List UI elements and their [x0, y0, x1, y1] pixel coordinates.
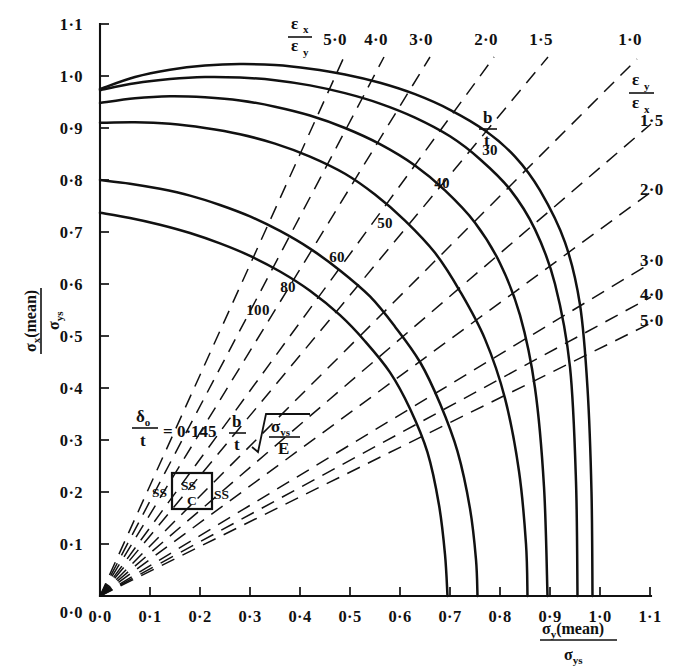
bt-curve-label: 40 [434, 175, 450, 191]
strain-ratio-rays [100, 57, 651, 596]
bt-curve-label: 100 [246, 302, 269, 318]
x-tick-label: 0·4 [288, 607, 311, 626]
epsilon-x-subscript: x [303, 23, 309, 35]
strain-ratio-ray [100, 323, 651, 596]
strain-ratio-ray-label: 4·0 [364, 30, 388, 49]
formula-sigma-ys: σys [271, 417, 291, 438]
y-tick-label: 0·1 [60, 535, 83, 554]
boundary-bottom-label: C [187, 493, 197, 508]
epsilon-y-symbol: ε [291, 36, 299, 55]
y-axis-title: σx(mean) σys [22, 288, 65, 354]
epsilon-y-over-x-label: ε y ε x [629, 70, 654, 115]
boundary-top-label: SS [181, 478, 196, 493]
epsilon-y-subscript: y [303, 46, 309, 58]
epsilon-y-subscript-right: y [644, 80, 650, 92]
chart-canvas: 0·10·20·30·40·50·60·70·80·91·01·10·0 0·0… [0, 0, 683, 666]
x-tick-label: 0·0 [88, 607, 111, 626]
x-tick-label: 1·1 [638, 607, 661, 626]
boundary-right-label: SS [214, 487, 229, 502]
y-axis-title-numerator: σx(mean) [22, 290, 42, 352]
formula-b: b [232, 412, 241, 431]
y-tick-label: 0·3 [60, 431, 83, 450]
bt-interaction-curves [100, 64, 593, 596]
formula-t: t [234, 435, 240, 454]
strain-ratio-ray-label: 5·0 [323, 30, 347, 49]
epsilon-x-symbol: ε [291, 14, 299, 33]
x-tick-label: 0·1 [138, 607, 161, 626]
strain-ratio-ray [100, 57, 344, 596]
bt-curve-50 [100, 96, 548, 596]
interaction-curve-figure: 0·10·20·30·40·50·60·70·80·91·01·10·0 0·0… [0, 0, 683, 666]
formula-E: E [278, 439, 289, 458]
epsilon-x-over-y-label: ε x ε y [288, 14, 312, 58]
epsilon-x-symbol-right: ε [632, 93, 640, 112]
x-tick-label: 0·8 [488, 607, 511, 626]
bt-curve-label: 60 [329, 249, 345, 265]
strain-ratio-ray-label: 4·0 [640, 285, 664, 304]
y-tick-label-zero: 0·0 [60, 603, 83, 622]
x-tick-label: 0·3 [238, 607, 261, 626]
strain-ratio-ray [100, 57, 430, 596]
x-tick-label: 0·7 [438, 607, 461, 626]
axes-group [100, 24, 651, 596]
bt-numerator: b [483, 108, 493, 127]
strain-ratio-ray [100, 297, 651, 596]
strain-ratio-ray [100, 57, 494, 596]
x-tick-label: 0·5 [338, 607, 361, 626]
epsilon-x-subscript-right: x [644, 103, 650, 115]
bt-denominator: t [484, 131, 490, 150]
x-axis-title: σy(mean) σys [540, 620, 617, 666]
y-tick-label: 0·8 [60, 171, 83, 190]
bt-curve-30 [100, 64, 593, 596]
bt-curve-100 [100, 213, 448, 596]
y-tick-label: 0·9 [60, 119, 83, 138]
bt-curve-80 [100, 180, 478, 596]
strain-ratio-ray-label: 3·0 [409, 30, 433, 49]
y-tick-label: 0·4 [60, 379, 83, 398]
bt-curve-label: 50 [377, 215, 393, 231]
x-tick-label: 0·6 [388, 607, 411, 626]
y-tick-label: 0·6 [60, 275, 83, 294]
strain-ratio-ray-label: 2·0 [640, 180, 664, 199]
y-tick-label: 1·0 [60, 67, 83, 86]
x-axis-title-denominator: σys [564, 646, 583, 666]
epsilon-y-symbol-right: ε [632, 70, 640, 89]
strain-ratio-ray-label: 3·0 [640, 251, 664, 270]
bt-curve-60 [100, 122, 528, 596]
strain-ratio-ray-label: 1·0 [618, 30, 642, 49]
strain-ratio-ray-label: 5·0 [640, 311, 664, 330]
y-tick-label: 0·5 [60, 327, 83, 346]
y-tick-label: 1·1 [60, 15, 83, 34]
boundary-left-label: SS [152, 485, 167, 500]
x-tick-label: 0·2 [188, 607, 211, 626]
bt-curve-40 [100, 77, 578, 596]
strain-ratio-ray-label: 1·5 [529, 30, 553, 49]
formula-delta: δo [136, 407, 151, 428]
formula-equals: = 0·145 [163, 422, 217, 441]
bt-curve-label: 80 [280, 279, 296, 295]
y-tick-label: 0·7 [60, 223, 83, 242]
x-axis-ticks [150, 587, 650, 596]
y-tick-label: 0·2 [60, 483, 83, 502]
formula-delta-denominator: t [140, 431, 146, 450]
strain-ratio-ray [100, 57, 548, 596]
strain-ratio-ray-label: 2·0 [474, 30, 498, 49]
strain-ratio-ray [100, 57, 384, 596]
